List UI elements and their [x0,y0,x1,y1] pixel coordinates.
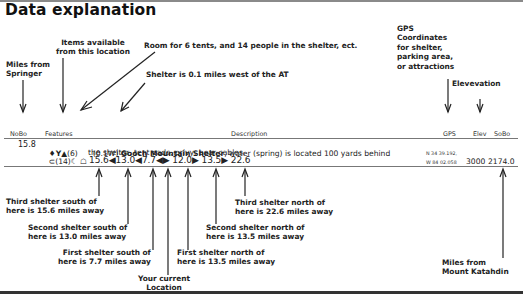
bottom-rule [0,291,523,294]
arrow-shelter-west [121,83,145,111]
arrows-layer [0,0,523,300]
arrow-room-for-tents [81,52,155,110]
